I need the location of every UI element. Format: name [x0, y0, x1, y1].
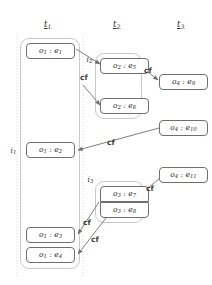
cf-e1-e5: cf	[80, 73, 88, 82]
event-box-o1-e4: o1 : e4	[26, 247, 75, 263]
event-label: o1 : e4	[39, 250, 62, 259]
event-label: o3 : e8	[113, 205, 136, 214]
event-box-o3-e7: o3 : e7	[100, 186, 149, 202]
event-box-o1-e1: o1 : e1	[26, 43, 75, 59]
event-label: o1 : e2	[39, 145, 62, 154]
event-label: o3 : e7	[113, 189, 136, 198]
cf-e8-e4: cf	[91, 235, 99, 244]
event-sequence-diagram: t1t2t3 i1i2i3 o1 : e1o1 : e2o1 : e3o1 : …	[0, 0, 212, 285]
event-label: o2 : e6	[113, 101, 136, 110]
event-box-o4-e11: o4 : e11	[159, 167, 208, 183]
event-box-o2-e5: o2 : e5	[100, 58, 149, 74]
edge-e1-to-e5	[76, 49, 100, 64]
event-label: o4 : e10	[170, 123, 197, 132]
cf-e11-e7: cf	[146, 184, 154, 193]
event-box-o1-e3: o1 : e3	[26, 227, 75, 243]
event-box-o1-e2: o1 : e2	[26, 142, 75, 158]
event-box-o2-e6: o2 : e6	[100, 98, 149, 114]
event-label: o4 : e9	[172, 77, 195, 86]
event-label: o4 : e11	[170, 170, 197, 179]
edge-cf-to-e6	[83, 85, 100, 105]
event-label: o1 : e3	[39, 230, 62, 239]
event-label: o2 : e5	[113, 61, 136, 70]
event-box-o4-e9: o4 : e9	[159, 74, 208, 90]
cf-e5-e9: cf	[144, 66, 152, 75]
cf-e10-e2: cf	[107, 138, 115, 147]
event-label: o1 : e1	[39, 46, 62, 55]
event-box-o4-e10: o4 : e10	[159, 120, 208, 136]
cf-e7-e3: cf	[83, 218, 91, 227]
event-box-o3-e8: o3 : e8	[100, 202, 149, 218]
edge-e10-to-e2	[78, 128, 159, 150]
